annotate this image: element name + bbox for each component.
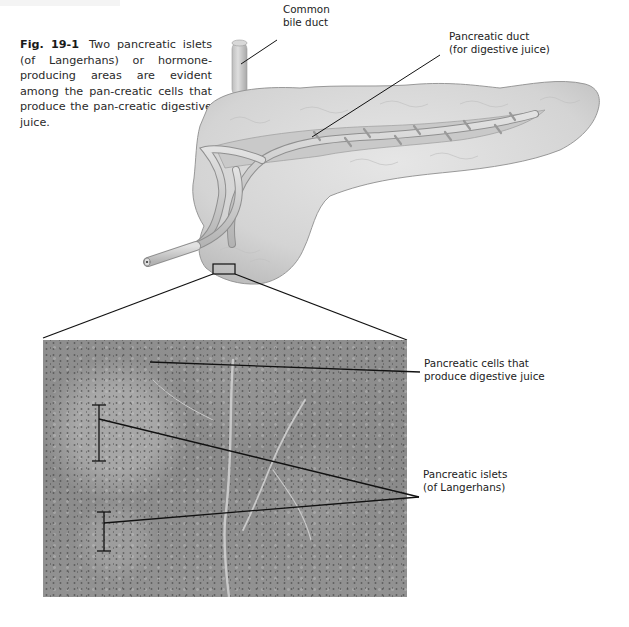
label-common-bile-duct: Common bile duct — [283, 3, 330, 29]
label-pancreatic-cells: Pancreatic cells that produce digestive … — [424, 357, 545, 383]
label-pancreatic-islets: Pancreatic islets (of Langerhans) — [423, 468, 507, 494]
leader-islet-lower — [104, 497, 419, 523]
micrograph-annotations — [0, 0, 629, 627]
label-pancreatic-duct: Pancreatic duct (for digestive juice) — [449, 30, 550, 56]
leader-islet-upper — [99, 419, 419, 497]
leader-pancreatic-cells — [150, 362, 420, 372]
